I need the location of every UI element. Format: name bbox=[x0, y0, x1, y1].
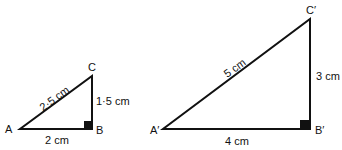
similar-triangles-diagram: A B C 2 cm 1·5 cm 2·5 cm A′ B′ C′ 4 cm 3… bbox=[0, 0, 342, 150]
side-ab-prime-label: 4 cm bbox=[225, 135, 249, 147]
vertex-c-prime-label: C′ bbox=[306, 4, 316, 16]
right-angle-marker bbox=[84, 121, 92, 129]
right-angle-marker bbox=[300, 120, 310, 129]
side-bc-prime-label: 3 cm bbox=[316, 70, 340, 82]
vertex-a-prime-label: A′ bbox=[150, 124, 159, 136]
vertex-c-label: C bbox=[88, 61, 96, 73]
large-triangle: A′ B′ C′ 4 cm 3 cm 5 cm bbox=[150, 4, 340, 147]
side-ac-label: 2·5 cm bbox=[37, 84, 71, 113]
small-triangle: A B C 2 cm 1·5 cm 2·5 cm bbox=[5, 61, 130, 146]
side-bc-label: 1·5 cm bbox=[96, 95, 130, 107]
vertex-a-label: A bbox=[5, 123, 13, 135]
triangle-a-prime-b-prime-c-prime bbox=[163, 19, 310, 129]
vertex-b-prime-label: B′ bbox=[315, 124, 324, 136]
vertex-b-label: B bbox=[96, 124, 103, 136]
side-ab-label: 2 cm bbox=[45, 134, 69, 146]
